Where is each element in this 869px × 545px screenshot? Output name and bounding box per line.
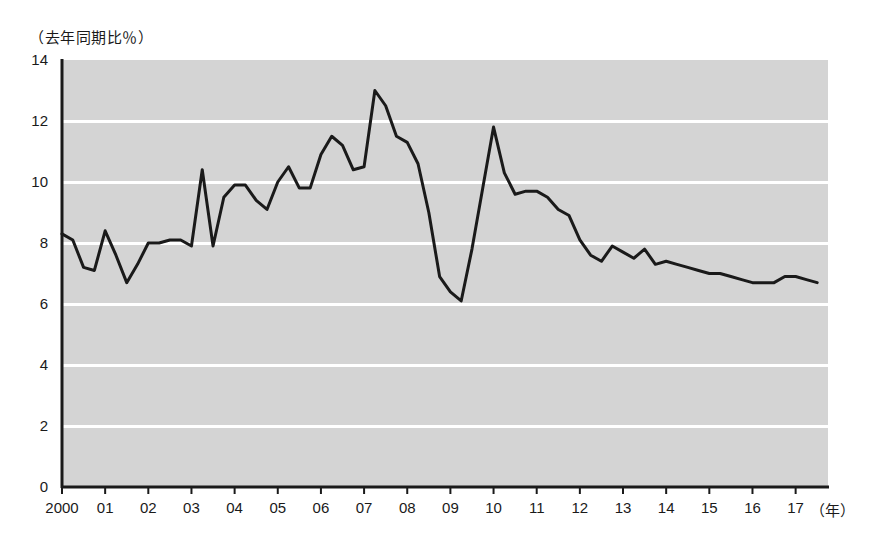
x-axis-unit-label: （年）: [810, 499, 855, 520]
chart-figure: （去年同期比％） 02468101214 2000010203040506070…: [0, 0, 869, 545]
y-tick-label: 14: [18, 51, 48, 68]
chart-plot-area: [0, 0, 869, 545]
y-tick-label: 8: [18, 234, 48, 251]
y-tick-label: 0: [18, 478, 48, 495]
y-tick-label: 2: [18, 417, 48, 434]
y-tick-label: 12: [18, 112, 48, 129]
y-tick-label: 10: [18, 173, 48, 190]
y-tick-label: 4: [18, 356, 48, 373]
y-tick-label: 6: [18, 295, 48, 312]
